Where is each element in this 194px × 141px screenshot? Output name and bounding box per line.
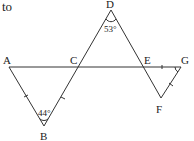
angle-label-D: 53° <box>104 24 117 34</box>
segment-BD <box>44 10 111 126</box>
point-label-A: A <box>3 54 11 66</box>
point-label-E: E <box>144 54 151 66</box>
point-label-B: B <box>40 130 47 141</box>
point-label-D: D <box>106 0 114 10</box>
angle-label-B: 44° <box>38 108 51 118</box>
tick-mark-BC <box>61 97 65 99</box>
point-label-C: C <box>70 54 77 66</box>
point-label-F: F <box>156 103 162 115</box>
angle-arc-D <box>106 19 116 22</box>
header-text: to <box>2 0 12 14</box>
angle-arc-G <box>175 67 178 72</box>
point-label-G: G <box>181 54 189 66</box>
geometry-diagram: to D A C E G F B 53° 44° <box>0 0 194 141</box>
segment-DF <box>111 10 161 98</box>
angle-arc-B <box>40 119 48 121</box>
